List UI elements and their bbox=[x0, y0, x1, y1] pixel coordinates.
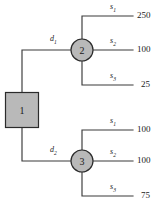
payoff-n2-s3: 25 bbox=[141, 80, 150, 89]
decision-tree-diagram: 1 2 3 d1 d2 s1 s2 s3 s1 s2 s3 250 100 25… bbox=[0, 0, 157, 207]
branch-label-n3-s1-sub: 1 bbox=[113, 121, 116, 127]
edge-n3-s3 bbox=[82, 172, 133, 196]
edge-n2-s3 bbox=[82, 61, 133, 85]
branch-label-n2-s3-sub: 3 bbox=[113, 76, 116, 82]
branch-label-d1: d1 bbox=[50, 35, 57, 45]
branch-label-d1-sub: 1 bbox=[54, 39, 57, 45]
chance-node-3-label: 3 bbox=[80, 156, 85, 167]
edge-d2 bbox=[22, 127, 71, 161]
edge-d1 bbox=[22, 50, 71, 92]
branch-label-n3-s1: s1 bbox=[110, 117, 116, 127]
payoff-n2-s2: 100 bbox=[137, 45, 151, 54]
branch-label-n2-s2-sub: 2 bbox=[113, 41, 116, 47]
branch-label-d2: d2 bbox=[50, 146, 57, 156]
branch-label-n2-s1-sub: 1 bbox=[113, 7, 116, 13]
branch-label-n2-s3: s3 bbox=[110, 72, 116, 82]
branch-label-n2-s2: s2 bbox=[110, 37, 116, 47]
payoff-n3-s1: 100 bbox=[137, 125, 151, 134]
payoff-n2-s1: 250 bbox=[137, 11, 151, 20]
payoff-n3-s3: 75 bbox=[141, 191, 150, 200]
branch-label-n2-s1: s1 bbox=[110, 3, 116, 13]
branch-label-n3-s3-sub: 3 bbox=[113, 187, 116, 193]
payoff-n3-s2: 100 bbox=[137, 156, 151, 165]
branch-label-n3-s2: s2 bbox=[110, 148, 116, 158]
branch-label-n3-s2-sub: 2 bbox=[113, 152, 116, 158]
branch-label-d2-sub: 2 bbox=[54, 150, 57, 156]
decision-tree-canvas: 1 2 3 bbox=[0, 0, 157, 207]
decision-node-1-label: 1 bbox=[20, 105, 25, 116]
branch-label-n3-s3: s3 bbox=[110, 183, 116, 193]
chance-node-2-label: 2 bbox=[80, 45, 85, 56]
edge-n3-s1 bbox=[82, 130, 133, 150]
edge-n2-s1 bbox=[82, 16, 133, 39]
